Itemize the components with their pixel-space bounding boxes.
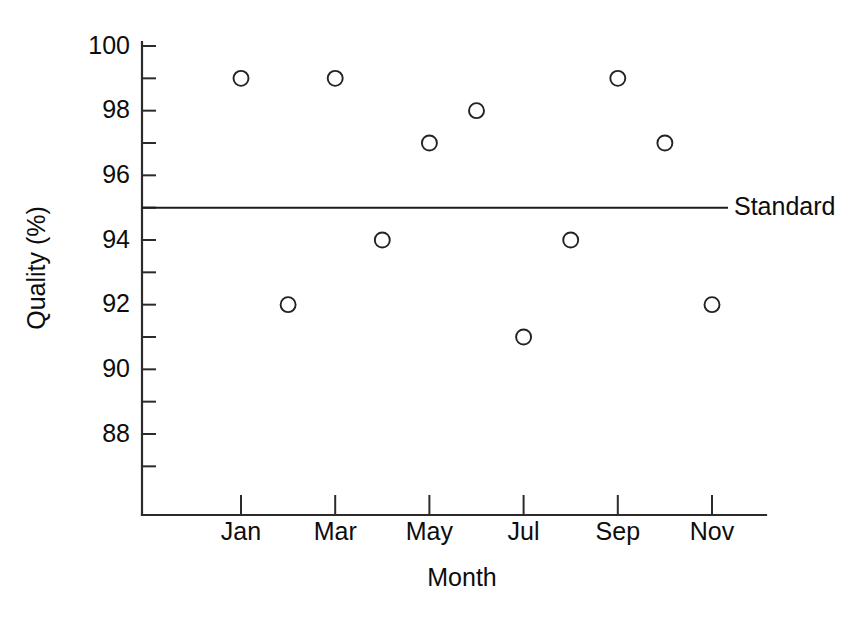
y-axis-tick-labels: 889092949698100 xyxy=(88,31,130,447)
x-axis-tick-label: Nov xyxy=(690,517,735,545)
data-point-marker xyxy=(516,330,531,345)
data-point-marker xyxy=(422,136,437,151)
x-axis-tick-label: Jan xyxy=(221,517,261,545)
data-point-marker xyxy=(328,71,343,86)
x-axis-tick-label: Jul xyxy=(508,517,540,545)
data-point-marker xyxy=(375,233,390,248)
data-point-marker xyxy=(610,71,625,86)
y-axis-minor-ticks xyxy=(142,78,156,466)
data-point-marker xyxy=(281,297,296,312)
y-axis-tick-label: 96 xyxy=(102,160,130,188)
x-axis-tick-label: Mar xyxy=(314,517,357,545)
chart-page: 889092949698100 JanMarMayJulSepNov Stand… xyxy=(0,0,854,619)
y-axis-tick-label: 90 xyxy=(102,354,130,382)
data-point-marker xyxy=(234,71,249,86)
y-axis-title: Quality (%) xyxy=(22,206,50,330)
y-axis-ticks xyxy=(142,46,156,434)
y-axis-tick-label: 98 xyxy=(102,95,130,123)
data-point-marker xyxy=(469,103,484,118)
y-axis-tick-label: 100 xyxy=(88,31,130,59)
quality-scatter-chart: 889092949698100 JanMarMayJulSepNov Stand… xyxy=(0,0,854,619)
x-axis-title: Month xyxy=(427,563,496,591)
x-axis-tick-label: Sep xyxy=(596,517,640,545)
data-point-marker xyxy=(705,297,720,312)
y-axis-tick-label: 94 xyxy=(102,225,130,253)
data-point-marker xyxy=(657,136,672,151)
y-axis-tick-label: 92 xyxy=(102,289,130,317)
x-axis-tick-labels: JanMarMayJulSepNov xyxy=(221,517,735,545)
data-point-marker xyxy=(563,233,578,248)
standard-reference-label: Standard xyxy=(734,192,835,220)
x-axis-ticks xyxy=(241,495,712,515)
y-axis-tick-label: 88 xyxy=(102,419,130,447)
x-axis-tick-label: May xyxy=(406,517,454,545)
